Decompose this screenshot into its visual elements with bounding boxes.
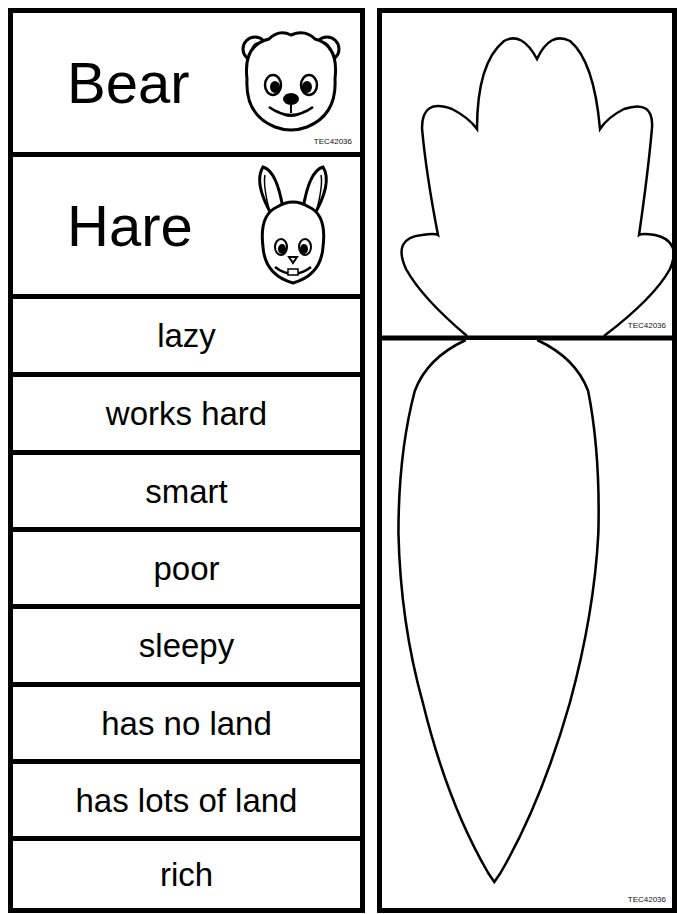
trait-label: lazy <box>157 319 216 352</box>
product-code: TEC42036 <box>314 137 352 146</box>
title-label-bear: Bear <box>67 49 190 116</box>
trait-label: smart <box>145 475 228 508</box>
title-label-hare: Hare <box>67 192 193 259</box>
trait-label: poor <box>153 552 219 585</box>
trait-label: works hard <box>106 397 267 430</box>
trait-label: sleepy <box>139 629 234 662</box>
carrot-root-piece[interactable] <box>382 341 672 908</box>
trait-card[interactable]: sleepy <box>13 609 360 687</box>
trait-card[interactable]: lazy <box>13 299 360 377</box>
trait-card[interactable]: smart <box>13 455 360 532</box>
trait-card[interactable]: poor <box>13 532 360 609</box>
carrot-top-piece[interactable] <box>382 13 672 338</box>
trait-label: has lots of land <box>76 784 298 817</box>
title-card-hare[interactable]: Hare <box>13 157 360 299</box>
trait-card[interactable]: has no land <box>13 687 360 764</box>
trait-label: has no land <box>101 707 272 740</box>
trait-label: rich <box>160 858 213 891</box>
trait-card[interactable]: has lots of land <box>13 764 360 841</box>
carrot-sheet: TEC42036 TEC42036 <box>377 8 677 913</box>
title-card-bear[interactable]: Bear TEC42036 <box>13 13 360 157</box>
trait-card[interactable]: works hard <box>13 377 360 455</box>
hare-face-icon <box>251 163 335 289</box>
word-card-sheet: Bear TEC42036 Hare <box>8 8 365 913</box>
bear-face-icon <box>235 23 347 135</box>
trait-card[interactable]: rich <box>13 841 360 908</box>
